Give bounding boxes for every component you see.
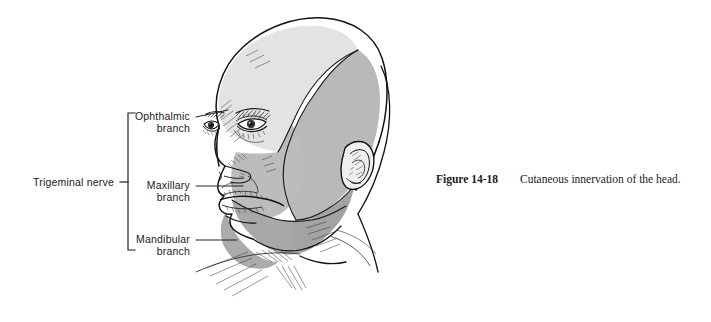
label-maxillary-branch-line1: Maxillary [118,179,190,192]
ear [341,141,374,189]
figure-illustration-panel: Trigeminal nerve Ophthalmic branch Maxil… [0,0,711,322]
label-mandibular-branch-line2: branch [110,245,190,258]
figure-number: Figure 14-18 [436,173,498,185]
figure-caption-text: Cutaneous innervation of the head. [520,173,681,185]
head-innervation-diagram [0,0,711,322]
label-mandibular-branch-line1: Mandibular [110,233,190,246]
label-trigeminal-nerve: Trigeminal nerve [18,176,114,189]
label-ophthalmic-branch-line2: branch [118,122,190,135]
label-maxillary-branch-line2: branch [118,191,190,204]
label-ophthalmic-branch-line1: Ophthalmic [118,110,190,123]
